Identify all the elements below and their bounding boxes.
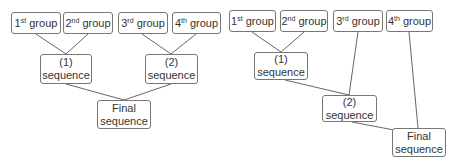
left-final-sequence: Final sequence (97, 100, 151, 129)
right-sequence-1: (1) sequence (254, 52, 308, 80)
right-group-4: 4th group (386, 10, 433, 32)
left-group-3: 3rd group (118, 12, 168, 34)
right-final-sequence: Final sequence (392, 128, 446, 157)
right-group-3: 3rd group (333, 10, 383, 32)
left-group-2: 2nd group (63, 12, 113, 34)
right-group-2: 2nd group (280, 10, 328, 32)
right-group-1: 1st group (229, 10, 276, 32)
left-group-1: 1st group (11, 12, 61, 34)
left-group-4: 4th group (172, 12, 221, 34)
right-sequence-2: (2) sequence (322, 95, 377, 122)
left-sequence-2: (2) sequence (145, 54, 198, 84)
left-sequence-1: (1) sequence (40, 54, 92, 84)
